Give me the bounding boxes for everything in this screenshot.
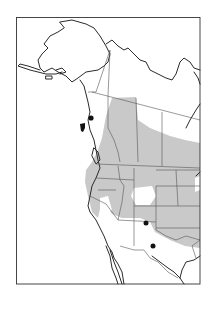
range-map	[0, 0, 214, 310]
record-dot	[144, 221, 149, 226]
record-dot	[88, 115, 93, 120]
range-map-svg	[0, 0, 214, 310]
record-dot	[151, 244, 156, 249]
range-area	[85, 97, 200, 248]
record-dot	[80, 123, 85, 132]
